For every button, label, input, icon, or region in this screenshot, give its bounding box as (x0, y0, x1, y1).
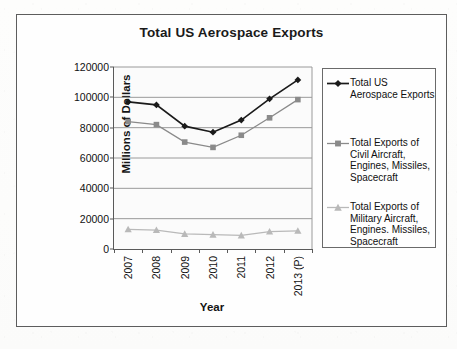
x-tick-mark (284, 249, 285, 253)
square-marker (210, 145, 216, 151)
y-tick-label: 20000 (80, 213, 109, 225)
chart-title: Total US Aerospace Exports (17, 25, 446, 40)
y-tick-label: 80000 (80, 122, 109, 134)
plot-area: Millions of Dollars 02000040000600008000… (113, 67, 312, 250)
legend-label: Total Exports of Military Aircraft, Engi… (349, 201, 435, 247)
square-marker (154, 122, 160, 128)
x-tick-label: 2007 (122, 256, 134, 279)
y-tick-label: 120000 (74, 61, 109, 73)
x-tick-mark (142, 249, 143, 253)
square-marker (182, 139, 188, 145)
x-tick-mark (199, 249, 200, 253)
x-tick-label: 2010 (207, 256, 219, 279)
legend-key-triangle-icon (327, 202, 349, 213)
y-tick-label: 40000 (80, 182, 109, 194)
x-tick-label: 2013 (P) (292, 256, 304, 296)
x-tick-mark (114, 249, 115, 253)
y-tick-label: 100000 (74, 91, 109, 103)
x-tick-label: 2011 (235, 256, 247, 279)
chart-legend: Total US Aerospace ExportsTotal Exports … (322, 68, 436, 248)
y-tick-label: 0 (103, 243, 109, 255)
diamond-marker (125, 98, 132, 105)
square-marker (267, 115, 273, 121)
y-tick-label: 60000 (80, 152, 109, 164)
legend-key-square-icon (327, 138, 349, 149)
plot-series-svg (114, 67, 312, 249)
series-line (128, 100, 298, 148)
x-axis-title: Year (113, 301, 311, 313)
diamond-marker (210, 129, 217, 136)
x-tick-mark (171, 249, 172, 253)
legend-label: Total US Aerospace Exports (349, 77, 435, 100)
legend-entry[interactable]: Total US Aerospace Exports (327, 77, 435, 100)
diamond-marker (334, 80, 341, 87)
x-tick-label: 2012 (264, 256, 276, 279)
x-tick-mark (255, 249, 256, 253)
legend-entry[interactable]: Total Exports of Military Aircraft, Engi… (327, 201, 435, 247)
chart-frame: Total US Aerospace Exports Millions of D… (16, 14, 447, 327)
x-tick-mark (312, 249, 313, 253)
legend-entry[interactable]: Total Exports of Civil Aircraft, Engines… (327, 137, 435, 183)
square-marker (335, 141, 341, 147)
square-marker (125, 119, 131, 125)
x-tick-mark (227, 249, 228, 253)
legend-key-diamond-icon (327, 78, 349, 89)
legend-label: Total Exports of Civil Aircraft, Engines… (349, 137, 435, 183)
square-marker (238, 132, 244, 138)
x-tick-label: 2009 (179, 256, 191, 279)
x-tick-label: 2008 (150, 256, 162, 279)
square-marker (295, 97, 301, 103)
